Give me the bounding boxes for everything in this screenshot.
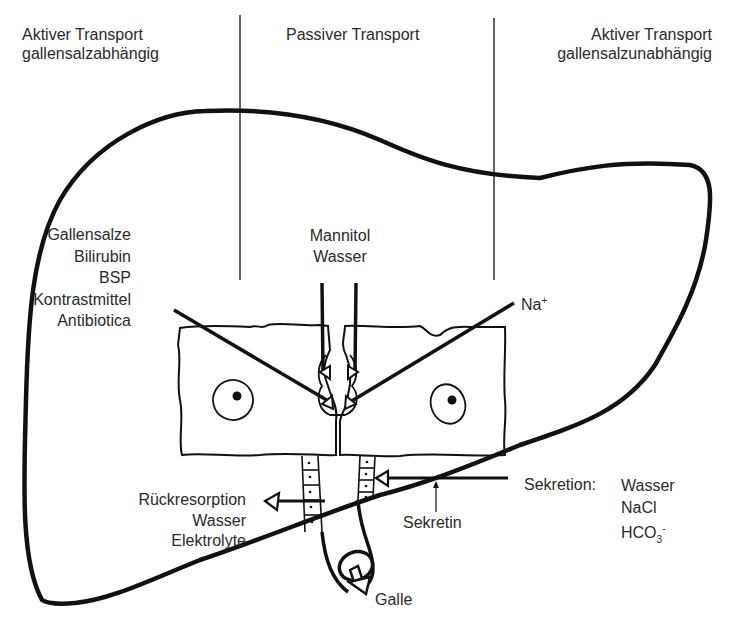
reabsorption-label: Rückresorption xyxy=(138,490,246,511)
ion-base: Na xyxy=(521,296,541,313)
bicarbonate-subscript: 3 xyxy=(657,534,663,545)
nucleus-right xyxy=(425,379,471,428)
secretin-label: Sekretin xyxy=(403,513,462,532)
substance-label: Kontrastmittel xyxy=(33,289,131,311)
secretion-label: Sekretion: xyxy=(524,475,596,494)
substance-label: Antibiotica xyxy=(33,310,131,332)
reabsorption-label: Elektrolyte xyxy=(138,531,246,552)
ion-charge: + xyxy=(541,295,547,306)
hepatocyte-right xyxy=(340,326,506,456)
secretion-item: Wasser xyxy=(621,475,675,497)
hepatocyte-left xyxy=(178,324,336,456)
nucleolus-left xyxy=(233,392,242,401)
bicarbonate-charge: - xyxy=(662,523,665,534)
bile-label: Galle xyxy=(375,590,412,609)
secretion-arrow xyxy=(376,471,508,486)
substance-label: Wasser xyxy=(300,246,380,267)
passive-line-2 xyxy=(355,283,356,372)
reabsorption-arrow xyxy=(265,493,325,510)
secretin-pointer xyxy=(433,481,439,512)
secretion-items: Wasser NaCl HCO3- xyxy=(621,475,675,550)
heading-line: gallensalzunabhängig xyxy=(557,44,712,63)
heading-line: gallensalzabhängig xyxy=(22,44,159,63)
heading-active-bile-salt-dependent: Aktiver Transport gallensalzabhängig xyxy=(22,25,159,63)
heading-line: Passiver Transport xyxy=(286,25,419,44)
heading-passive-transport: Passiver Transport xyxy=(286,25,419,44)
sodium-ion-label: Na+ xyxy=(521,291,547,314)
middle-substances: Mannitol Wasser xyxy=(300,225,380,267)
substance-label: Mannitol xyxy=(300,225,380,246)
secretion-item: NaCl xyxy=(621,497,675,519)
bile-output-arrow xyxy=(349,566,370,594)
heading-active-bile-salt-independent: Aktiver Transport gallensalzunabhängig xyxy=(557,25,712,63)
left-substances: Gallensalze Bilirubin BSP Kontrastmittel… xyxy=(33,224,131,332)
heading-line: Aktiver Transport xyxy=(22,25,159,44)
heading-line: Aktiver Transport xyxy=(557,25,712,44)
active-line-left xyxy=(174,310,330,402)
passive-line-1 xyxy=(322,283,323,372)
reabsorption-labels: Rückresorption Wasser Elektrolyte xyxy=(138,490,246,552)
secretion-item-bicarbonate: HCO3- xyxy=(621,518,675,550)
substance-label: BSP xyxy=(33,267,131,289)
active-line-right xyxy=(350,303,514,402)
nucleolus-right xyxy=(448,396,457,405)
liver-outline xyxy=(24,110,710,603)
substance-label: Bilirubin xyxy=(33,246,131,268)
reabsorption-label: Wasser xyxy=(138,511,246,532)
bicarbonate-base: HCO xyxy=(621,524,657,541)
substance-label: Gallensalze xyxy=(33,224,131,246)
nucleus-left xyxy=(209,376,258,425)
